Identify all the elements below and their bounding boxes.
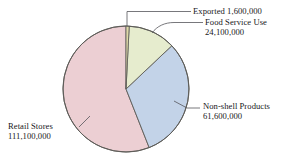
pie-label-retail-value: 111,100,000 xyxy=(8,131,53,141)
pie-chart-figure: Exported 1,600,000 Food Service Use 24,1… xyxy=(0,0,294,162)
pie-label-retail-name: Retail Stores xyxy=(8,121,53,131)
pie-label-exported: Exported 1,600,000 xyxy=(193,6,262,16)
leader-line-food-service xyxy=(152,23,203,34)
pie-label-exported-text: Exported 1,600,000 xyxy=(193,6,262,16)
pie-label-retail-stores: Retail Stores 111,100,000 xyxy=(8,121,53,141)
pie-label-food-service-use: Food Service Use 24,100,000 xyxy=(205,17,267,37)
pie-label-nonshell-value: 61,600,000 xyxy=(203,111,270,121)
pie-label-food-service-name: Food Service Use xyxy=(205,17,267,27)
pie-label-food-service-value: 24,100,000 xyxy=(205,27,267,37)
leader-line-exported xyxy=(127,12,191,27)
pie-label-nonshell-products: Non-shell Products 61,600,000 xyxy=(203,101,270,121)
pie-label-nonshell-name: Non-shell Products xyxy=(203,101,270,111)
